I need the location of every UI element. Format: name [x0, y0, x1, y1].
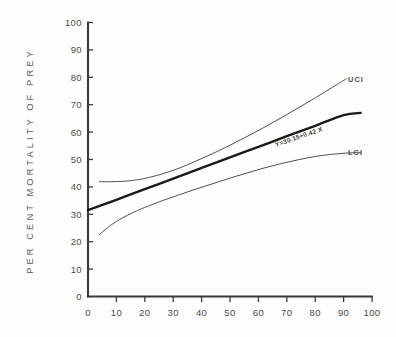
x-tick-label-90: 90 [338, 307, 349, 318]
x-tick-label-70: 70 [281, 307, 292, 318]
y-tick-label-0: 0 [76, 291, 82, 302]
axis-y-title-group: PER CENT MORTALITY OF PREY [25, 48, 35, 274]
uci-label: UCI [348, 75, 364, 84]
y-tick-label-40: 40 [71, 181, 82, 192]
x-tick-label-60: 60 [253, 307, 264, 318]
x-tick-label-20: 20 [139, 307, 150, 318]
y-tick-label-80: 80 [71, 72, 82, 83]
y-tick-label-10: 10 [71, 264, 82, 275]
regression-equation-label: Y=30.15+0.42 X [274, 125, 324, 148]
y-tick-label-60: 60 [71, 127, 82, 138]
x-tick-label-100: 100 [363, 307, 380, 318]
x-tick-label-40: 40 [196, 307, 207, 318]
x-tick-label-80: 80 [310, 307, 321, 318]
y-axis-title: PER CENT MORTALITY OF PREY [25, 48, 35, 274]
x-axis-group: 0 10 20 30 40 50 60 70 80 90 100 [85, 297, 380, 319]
x-tick-label-50: 50 [224, 307, 235, 318]
y-tick-label-30: 30 [71, 209, 82, 220]
x-axis-tick-labels: 0 10 20 30 40 50 60 70 80 90 100 [85, 307, 380, 318]
x-tick-label-30: 30 [168, 307, 179, 318]
lci-curve [99, 153, 360, 235]
y-tick-label-50: 50 [71, 154, 82, 165]
chart-figure: PER CENT MORTALITY OF PREY 100 90 80 70 [0, 0, 396, 337]
x-tick-label-10: 10 [111, 307, 122, 318]
data-curves [88, 79, 361, 235]
y-axis-group: 100 90 80 70 60 50 40 30 20 10 0 [65, 17, 93, 302]
series-labels: UCI LCI Y=30.15+0.42 X [274, 75, 364, 157]
y-tick-label-70: 70 [71, 99, 82, 110]
regression-confidence-interval-chart: PER CENT MORTALITY OF PREY 100 90 80 70 [0, 0, 396, 337]
x-tick-label-0: 0 [85, 307, 91, 318]
y-tick-label-20: 20 [71, 236, 82, 247]
y-tick-label-100: 100 [65, 17, 82, 28]
y-tick-label-90: 90 [71, 44, 82, 55]
lci-label: LCI [348, 148, 363, 157]
y-axis-tick-labels: 100 90 80 70 60 50 40 30 20 10 0 [65, 17, 82, 302]
